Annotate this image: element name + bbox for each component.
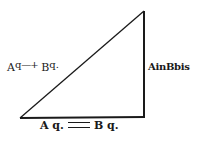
minus-operator-icon xyxy=(68,122,90,128)
base-term2: B q. xyxy=(94,119,119,132)
hypotenuse-label: Aq—+ Bq. xyxy=(7,62,59,73)
hyp-term2-exp: q. xyxy=(49,59,59,70)
hyp-term1-base: A xyxy=(7,61,15,74)
vertical-side-label: AinBbis xyxy=(148,62,190,72)
hyp-plus-operator: —+ xyxy=(21,59,37,70)
base-term1: A q. xyxy=(40,119,64,132)
base-line xyxy=(20,117,145,118)
base-label: A q.B q. xyxy=(40,120,119,131)
